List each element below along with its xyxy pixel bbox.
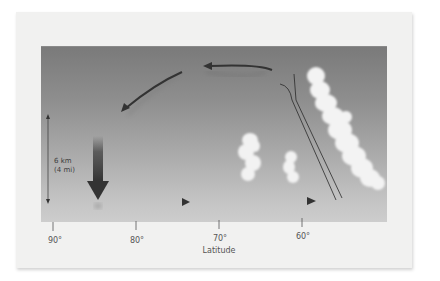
tick-label-80: 80° — [130, 236, 144, 245]
large-frontal-cloud — [307, 67, 385, 190]
height-km: 6 km — [54, 157, 75, 166]
descending-diagonal-arrow — [121, 72, 182, 115]
latitude-ticks — [53, 218, 302, 231]
small-cloud-2 — [283, 151, 299, 183]
sinking-air-arrow — [87, 136, 109, 209]
height-scale-label: 6 km (4 mi) — [54, 157, 75, 175]
height-scale-bar — [46, 114, 50, 204]
tick-label-60: 60° — [296, 232, 310, 241]
surface-eastward-arrow-1 — [124, 198, 190, 208]
x-axis-title: Latitude — [203, 246, 236, 255]
tick-label-70: 70° — [213, 234, 227, 243]
tick-label-90: 90° — [48, 236, 62, 245]
surface-eastward-arrow-2 — [222, 197, 316, 208]
height-mi: (4 mi) — [54, 166, 75, 175]
small-cloud-1 — [238, 133, 261, 181]
upper-westward-arrow — [203, 62, 272, 76]
